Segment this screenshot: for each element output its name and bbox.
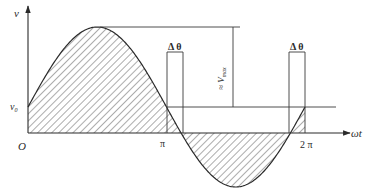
diagram-canvas: v O v0 π 2 π ωt Δ θ Δ θ ≈ Vmax	[0, 0, 367, 191]
pi-label: π	[160, 138, 165, 149]
sine-rectifier-diagram: v O v0 π 2 π ωt Δ θ Δ θ ≈ Vmax	[0, 0, 367, 191]
x-axis-label: ωt	[351, 127, 363, 139]
negative-shaded-area	[181, 133, 290, 187]
origin-label: O	[18, 140, 26, 152]
delta-theta-left-label: Δ θ	[168, 41, 181, 52]
delta-theta-right-label: Δ θ	[290, 41, 303, 52]
v0-label: v0	[10, 101, 17, 113]
two-pi-label: 2 π	[300, 139, 313, 150]
y-axis-label: v	[14, 7, 19, 19]
vmax-label: ≈ Vmax	[216, 67, 227, 90]
